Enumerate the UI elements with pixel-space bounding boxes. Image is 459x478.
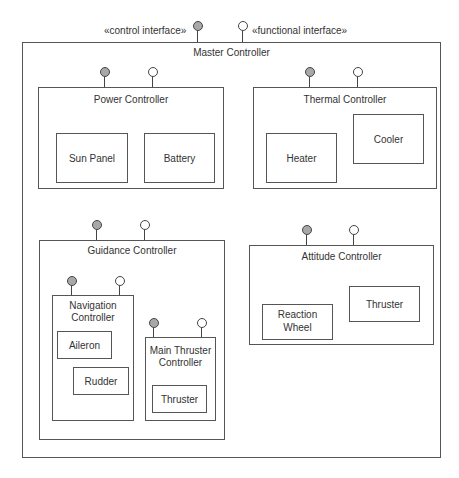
attitude-thruster-component[interactable]: Thruster — [349, 286, 420, 322]
attitude-control-interface-stem — [306, 235, 307, 245]
thermal-control-interface-stem — [309, 77, 310, 87]
main-thruster-control-interface-icon — [149, 318, 159, 328]
main-thruster-control-interface-stem — [153, 328, 154, 337]
thermal-functional-interface-icon — [353, 67, 363, 77]
power-functional-interface-stem — [152, 77, 153, 87]
reaction-wheel-label-line2: Wheel — [262, 322, 333, 334]
control-interface-label: «control interface» — [104, 25, 186, 37]
sun-panel-component[interactable]: Sun Panel — [56, 133, 128, 183]
thermal-control-interface-icon — [305, 67, 315, 77]
power-controller-title: Power Controller — [38, 94, 224, 106]
functional-interface-label: «functional interface» — [252, 25, 347, 37]
sun-panel-label: Sun Panel — [69, 152, 115, 165]
power-control-interface-stem — [104, 77, 105, 87]
aileron-component[interactable]: Aileron — [57, 331, 112, 359]
battery-label: Battery — [164, 152, 196, 165]
heater-component[interactable]: Heater — [266, 133, 337, 183]
attitude-controller-title: Attitude Controller — [249, 251, 434, 263]
guidance-control-interface-icon — [92, 220, 102, 230]
main-thruster-functional-interface-stem — [201, 328, 202, 337]
thermal-functional-interface-stem — [357, 77, 358, 87]
attitude-functional-interface-icon — [349, 225, 359, 235]
navigation-functional-interface-stem — [119, 286, 120, 295]
main-thruster-controller-title-line1: Main Thruster — [145, 345, 216, 357]
main-thruster-controller-title-line2: Controller — [145, 357, 216, 369]
heater-label: Heater — [286, 152, 316, 165]
master-controller-title: Master Controller — [22, 47, 441, 59]
navigation-control-interface-stem — [71, 286, 72, 295]
rudder-label: Rudder — [85, 375, 118, 388]
navigation-functional-interface-icon — [115, 276, 125, 286]
navigation-controller-title-line2: Controller — [52, 312, 134, 324]
power-control-interface-icon — [100, 67, 110, 77]
navigation-control-interface-icon — [67, 276, 77, 286]
guidance-functional-interface-icon — [140, 220, 150, 230]
cooler-label: Cooler — [374, 133, 403, 146]
guidance-controller-title: Guidance Controller — [39, 245, 225, 257]
attitude-functional-interface-stem — [353, 235, 354, 245]
main-thruster-component[interactable]: Thruster — [152, 385, 207, 413]
cooler-component[interactable]: Cooler — [353, 114, 424, 164]
navigation-controller-title-line1: Navigation — [52, 300, 134, 312]
aileron-label: Aileron — [69, 339, 100, 352]
main-thruster-label: Thruster — [161, 393, 198, 406]
attitude-thruster-label: Thruster — [366, 298, 403, 311]
power-functional-interface-icon — [148, 67, 158, 77]
attitude-control-interface-icon — [302, 225, 312, 235]
thermal-controller-title: Thermal Controller — [253, 94, 437, 106]
reaction-wheel-label-line1: Reaction — [262, 309, 333, 321]
guidance-functional-interface-stem — [144, 230, 145, 240]
rudder-component[interactable]: Rudder — [73, 367, 129, 395]
main-thruster-functional-interface-icon — [197, 318, 207, 328]
guidance-control-interface-stem — [96, 230, 97, 240]
master-functional-interface-icon — [238, 21, 248, 31]
master-control-interface-icon — [193, 21, 203, 31]
battery-component[interactable]: Battery — [144, 133, 215, 183]
